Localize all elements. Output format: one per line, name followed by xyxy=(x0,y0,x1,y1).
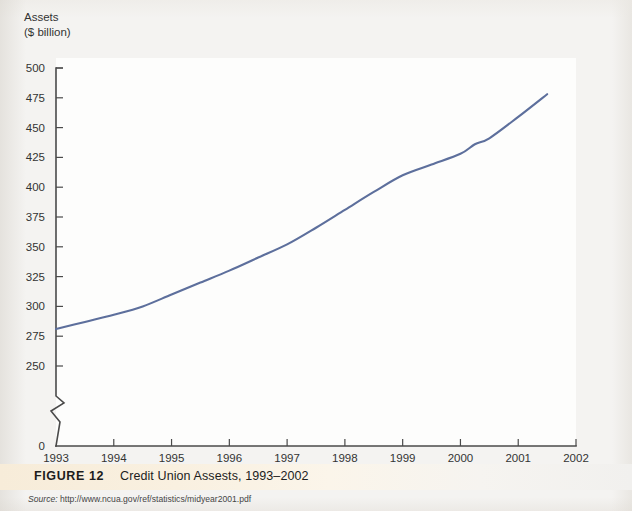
y-tick-label: 500 xyxy=(26,62,45,74)
x-tick-label: 1995 xyxy=(159,452,185,462)
y-tick-label: 375 xyxy=(26,211,45,223)
figure-title-label: Credit Union Assests, 1993–2002 xyxy=(120,469,309,483)
y-tick-label: 350 xyxy=(26,241,45,253)
x-tick-label: 2000 xyxy=(448,452,474,462)
y-tick-label: 325 xyxy=(26,271,45,283)
y-tick-label: 400 xyxy=(26,181,45,193)
source-url: http://www.ncua.gov/ref/statistics/midye… xyxy=(60,494,251,504)
figure-number-label: FIGURE 12 xyxy=(34,469,104,483)
y-tick-label: 425 xyxy=(26,151,45,163)
x-tick-label: 1994 xyxy=(101,452,127,462)
x-tick-label: 1999 xyxy=(390,452,416,462)
axes: 5004754504254003753503253002752500199319… xyxy=(26,62,589,462)
x-tick-label: 1993 xyxy=(43,452,69,462)
y-axis-line xyxy=(51,68,64,446)
figure-page: Assets ($ billion) 500475450425400375350… xyxy=(0,0,632,511)
y-tick-label: 250 xyxy=(26,360,45,372)
source-note: Source: http://www.ncua.gov/ref/statisti… xyxy=(28,494,251,504)
x-tick-label: 1997 xyxy=(274,452,300,462)
y-tick-label: 0 xyxy=(39,440,45,452)
y-tick-label: 300 xyxy=(26,300,45,312)
x-tick-label: 2002 xyxy=(563,452,589,462)
y-tick-label: 475 xyxy=(26,92,45,104)
figure-caption: FIGURE 12Credit Union Assests, 1993–2002 xyxy=(34,469,309,483)
x-tick-label: 2001 xyxy=(505,452,531,462)
line-chart: 5004754504254003753503253002752500199319… xyxy=(0,0,632,462)
y-tick-label: 275 xyxy=(26,330,45,342)
y-tick-label: 450 xyxy=(26,122,45,134)
x-tick-label: 1996 xyxy=(217,452,243,462)
data-series-line xyxy=(56,94,547,329)
source-label: Source: xyxy=(28,494,58,504)
x-tick-label: 1998 xyxy=(332,452,358,462)
